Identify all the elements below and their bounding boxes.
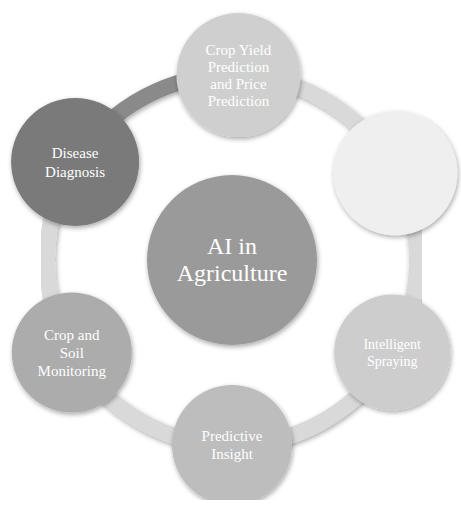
node-circle (333, 111, 457, 235)
center-node-group: AI inAgriculture (147, 175, 317, 345)
node-predictive-insight: PredictiveInsight (172, 385, 292, 500)
node-intelligent-spraying: IntelligentSpraying (334, 295, 450, 411)
node-crop-soil-monitoring: Crop andSoilMonitoring (12, 293, 132, 413)
node-label-line: and Price (210, 76, 267, 92)
node-crop-yield: Crop YieldPredictionand PricePrediction (176, 13, 300, 137)
node-label-line: Prediction (208, 59, 270, 75)
node-label-line: Disease (52, 145, 99, 161)
node-label-line: Intelligent (363, 337, 421, 352)
center-label-line: AI in (207, 233, 257, 259)
center-label-line: Agriculture (177, 260, 288, 286)
node-label-line: Soil (60, 345, 84, 361)
node-disease-diagnosis: DiseaseDiagnosis (11, 98, 139, 226)
node-label-line: Diagnosis (45, 164, 105, 180)
node-circle (11, 98, 139, 226)
ai-agriculture-diagram: AI inAgriculture Crop YieldPredictionand… (0, 0, 461, 500)
node-circle (334, 295, 450, 411)
node-label-line: Monitoring (38, 363, 107, 379)
node-label-line: Prediction (208, 93, 270, 109)
node-top-right (333, 111, 457, 235)
node-label-line: Spraying (367, 354, 418, 369)
node-label-line: Crop and (44, 327, 100, 343)
node-label-line: Insight (211, 446, 254, 462)
node-label-line: Predictive (202, 428, 263, 444)
node-label-line: Crop Yield (206, 42, 272, 58)
node-label: Crop YieldPredictionand PricePrediction (206, 42, 272, 109)
